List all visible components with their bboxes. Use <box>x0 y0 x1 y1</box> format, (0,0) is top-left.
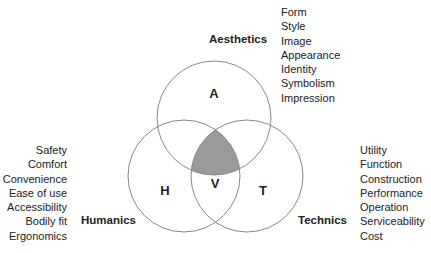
list-item: Ease of use <box>3 186 67 200</box>
center-label-v: V <box>211 176 220 191</box>
list-item: Form <box>281 5 340 19</box>
list-item: Utility <box>360 143 425 157</box>
list-item: Ergonomics <box>3 229 67 243</box>
list-item: Image <box>281 34 340 48</box>
category-aesthetics: Aesthetics <box>209 33 267 45</box>
list-item: Comfort <box>3 157 67 171</box>
list-item: Symbolism <box>281 76 340 90</box>
list-item: Identity <box>281 62 340 76</box>
list-item: Safety <box>3 143 67 157</box>
list-item: Convenience <box>3 172 67 186</box>
circle-label-a: A <box>209 86 218 101</box>
venn-diagram: A H T V Aesthetics Form Style Image Appe… <box>0 0 431 253</box>
aesthetics-list: Form Style Image Appearance Identity Sym… <box>281 5 340 105</box>
humanics-list: Safety Comfort Convenience Ease of use A… <box>3 143 67 243</box>
technics-list: Utility Function Construction Performanc… <box>360 143 425 243</box>
list-item: Accessibility <box>3 200 67 214</box>
list-item: Impression <box>281 91 340 105</box>
list-item: Construction <box>360 172 425 186</box>
list-item: Function <box>360 157 425 171</box>
intersection-region <box>191 120 303 232</box>
category-humanics: Humanics <box>81 214 136 226</box>
list-item: Cost <box>360 229 425 243</box>
list-item: Operation <box>360 200 425 214</box>
category-technics: Technics <box>298 214 347 226</box>
list-item: Serviceability <box>360 214 425 228</box>
list-item: Appearance <box>281 48 340 62</box>
list-item: Style <box>281 19 340 33</box>
list-item: Bodily fit <box>3 214 67 228</box>
circle-label-t: T <box>259 183 267 198</box>
circle-label-h: H <box>160 183 169 198</box>
list-item: Performance <box>360 186 425 200</box>
